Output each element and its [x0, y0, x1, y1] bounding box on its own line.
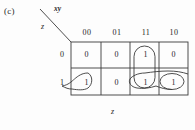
- group-wrap-left-upper: [62, 73, 88, 86]
- group-oval-cell-r1-c10: [160, 74, 184, 90]
- group-oval-row1-top-edge: [145, 71, 188, 74]
- group-wrap-left-lower: [62, 86, 72, 89]
- kmap-figure: (c) xy z z 00 01 11 10 0 1 0 0 1 0 1 0 1…: [0, 0, 195, 130]
- group-oval-row1-left-part: [129, 73, 156, 88]
- group-oval-column-11: [134, 46, 155, 88]
- kmap-graphics: [0, 0, 195, 130]
- group-wrap-left-cap: [72, 73, 92, 90]
- axis-diagonal-line: [40, 9, 71, 42]
